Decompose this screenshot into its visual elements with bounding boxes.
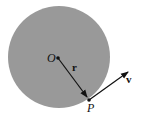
label-v: v: [126, 73, 132, 85]
circular-motion-diagram: O r P v: [0, 0, 141, 126]
label-p: P: [86, 101, 95, 115]
label-o: O: [47, 51, 56, 65]
label-r: r: [72, 61, 77, 73]
